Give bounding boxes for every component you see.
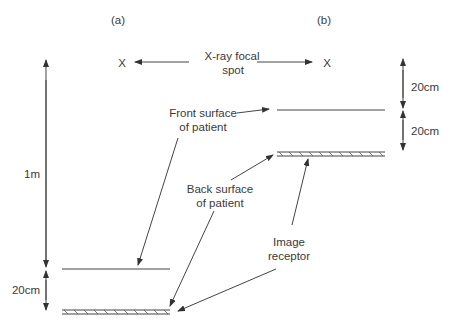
back-surface-label-line2: of patient (196, 197, 244, 209)
image-receptor-arrow-a (178, 269, 276, 311)
front-surface-arrow-a (138, 138, 178, 265)
image-receptor-label-line2: receptor (268, 250, 310, 262)
focal-spot-label-line1: X-ray focal (205, 50, 260, 62)
image-receptor-b (277, 152, 385, 156)
image-receptor-label-line1: Image (273, 236, 305, 248)
focal-spot-label-line2: spot (222, 64, 245, 76)
back-surface-arrow-b (231, 155, 273, 180)
dim-label-b-bottom: 20cm (411, 125, 439, 137)
xray-geometry-diagram: (a) (b) X X X-ray focal spot 1m 20cm 20c (0, 0, 461, 333)
back-surface-label-line1: Back surface (187, 183, 253, 195)
focal-spot-marker-b: X (323, 57, 331, 69)
image-receptor-a (62, 310, 170, 314)
panel-label-b: (b) (317, 14, 331, 26)
dim-label-b-top: 20cm (411, 81, 439, 93)
image-receptor-arrow-b (292, 159, 308, 225)
dim-label-1m: 1m (24, 168, 40, 180)
dim-label-a-20cm: 20cm (12, 284, 40, 296)
back-surface-arrow-a (170, 211, 214, 306)
front-surface-label-line2: of patient (179, 121, 227, 133)
panel-label-a: (a) (111, 14, 125, 26)
front-surface-arrow-b (237, 109, 269, 113)
focal-spot-marker-a: X (118, 57, 126, 69)
front-surface-label-line1: Front surface (169, 107, 237, 119)
